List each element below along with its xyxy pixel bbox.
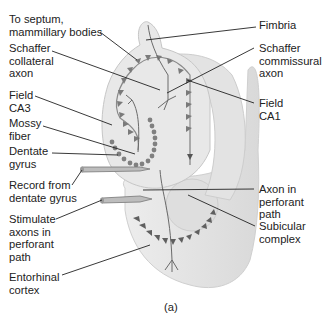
- label-stimulate: Stimulate axons in perforant path: [9, 213, 56, 263]
- label-schaffer-commissural: Schaffer commissural axon: [259, 42, 322, 80]
- label-entorhinal: Entorhinal cortex: [9, 271, 59, 296]
- label-schaffer-collateral: Schaffer collateral axon: [9, 42, 54, 80]
- label-field-ca1: Field CA1: [259, 97, 283, 122]
- label-field-ca3: Field CA3: [9, 89, 33, 114]
- label-perforant-axon: Axon in perforant path: [259, 183, 304, 221]
- figure-caption: (a): [164, 301, 178, 314]
- label-mossy-fiber: Mossy fiber: [9, 117, 41, 142]
- label-subicular: Subicular complex: [259, 220, 306, 245]
- label-record: Record from dentate gyrus: [9, 179, 77, 204]
- label-fimbria: Fimbria: [259, 19, 296, 32]
- label-dentate-gyrus: Dentate gyrus: [9, 145, 48, 170]
- label-septum: To septum, mammillary bodies: [9, 13, 102, 38]
